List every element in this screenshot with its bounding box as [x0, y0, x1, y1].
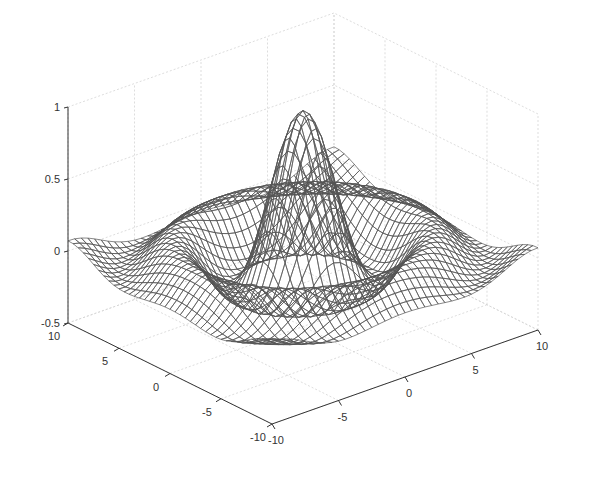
- x-tick-label: 10: [536, 340, 548, 352]
- x-tick-label: -10: [268, 434, 284, 446]
- surface-mesh-plot: -10-50510-10-50510-0.500.51: [0, 0, 589, 477]
- x-tick-mark: [472, 354, 475, 359]
- x-tick-mark: [405, 377, 408, 382]
- x-tick-mark: [538, 330, 541, 335]
- z-tick-label: -0.5: [41, 317, 60, 329]
- y-tick-mark: [114, 348, 119, 351]
- y-tick-mark: [267, 424, 272, 427]
- z-tick-mark: [64, 107, 68, 108]
- y-tick-label: 10: [48, 330, 60, 342]
- z-tick-label: 0.5: [45, 173, 60, 185]
- grid-line: [68, 13, 334, 107]
- z-tick-mark: [64, 179, 68, 180]
- y-tick-label: 5: [102, 355, 108, 367]
- y-tick-mark: [216, 399, 221, 402]
- x-tick-mark: [272, 424, 275, 429]
- y-tick-label: -10: [250, 431, 266, 443]
- y-tick-label: 0: [153, 381, 159, 393]
- z-tick-mark: [64, 251, 68, 252]
- x-tick-label: 5: [472, 364, 478, 376]
- x-tick-mark: [339, 401, 342, 406]
- x-tick-label: 0: [406, 387, 412, 399]
- z-tick-label: 1: [54, 101, 60, 113]
- mesh-surface: [68, 111, 538, 345]
- y-tick-label: -5: [202, 406, 212, 418]
- y-tick-mark: [165, 374, 170, 377]
- x-tick-label: -5: [338, 411, 348, 423]
- z-tick-label: 0: [54, 245, 60, 257]
